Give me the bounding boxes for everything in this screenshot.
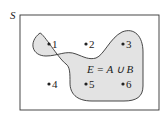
svg-text:6: 6: [126, 78, 132, 90]
svg-text:4: 4: [52, 78, 58, 90]
svg-text:3: 3: [126, 38, 132, 50]
svg-text:1: 1: [52, 38, 58, 50]
svg-text:5: 5: [89, 78, 95, 90]
universe-label: S: [10, 9, 16, 21]
svg-text:2: 2: [89, 38, 95, 50]
region-label: E = A ∪ B: [86, 63, 133, 75]
venn-diagram: S 1 2 3 4 5 6 E = A ∪ B: [0, 0, 161, 114]
